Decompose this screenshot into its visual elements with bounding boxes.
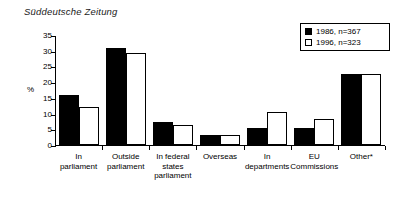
bar-1986 <box>59 95 79 145</box>
x-tick-mark <box>102 146 103 150</box>
x-axis-category-label: Other* <box>332 152 391 162</box>
y-tick-label: 20 <box>43 78 52 87</box>
plot-area: 05101520253035 <box>55 36 385 146</box>
bar-1996 <box>79 107 99 145</box>
y-tick-label: 35 <box>43 31 52 40</box>
x-tick-mark <box>149 146 150 150</box>
y-tick-label: 25 <box>43 62 52 71</box>
bar-group <box>291 36 338 145</box>
bar-1996 <box>126 53 146 145</box>
x-axis-label-line: states <box>143 162 202 172</box>
x-axis-line <box>55 145 385 146</box>
y-tick-label: 10 <box>43 110 52 119</box>
bar-1996 <box>267 112 287 145</box>
y-axis-label: % <box>27 85 34 94</box>
bar-1986 <box>200 135 220 145</box>
x-axis-label-line: Commissions <box>285 162 344 172</box>
bar-1986 <box>153 122 173 145</box>
bar-1986 <box>341 74 361 145</box>
bar-group <box>338 36 385 145</box>
x-axis-label-line: parliament <box>143 171 202 181</box>
x-axis-label-line: Other* <box>332 152 391 162</box>
legend-swatch-1986 <box>305 28 312 35</box>
chart-title: Süddeutsche Zeitung <box>24 6 118 17</box>
y-tick-label: 0 <box>48 141 52 150</box>
x-tick-mark <box>338 146 339 150</box>
bar-1986 <box>294 128 314 145</box>
bar-group <box>196 36 243 145</box>
bar-1986 <box>247 128 267 145</box>
bar-group <box>244 36 291 145</box>
bar-group <box>55 36 102 145</box>
x-tick-mark <box>385 146 386 150</box>
y-tick-label: 30 <box>43 47 52 56</box>
bar-1996 <box>361 74 381 145</box>
x-tick-mark <box>244 146 245 150</box>
y-tick-label: 15 <box>43 94 52 103</box>
x-tick-mark <box>196 146 197 150</box>
bar-1996 <box>220 135 240 145</box>
y-tick-label: 5 <box>48 125 52 134</box>
x-tick-mark <box>291 146 292 150</box>
bar-1986 <box>106 48 126 145</box>
chart-figure: Süddeutsche Zeitung 1986, n=367 1996, n=… <box>0 0 409 201</box>
bar-1996 <box>314 119 334 145</box>
bar-group <box>102 36 149 145</box>
bar-1996 <box>173 125 193 145</box>
bar-group <box>149 36 196 145</box>
